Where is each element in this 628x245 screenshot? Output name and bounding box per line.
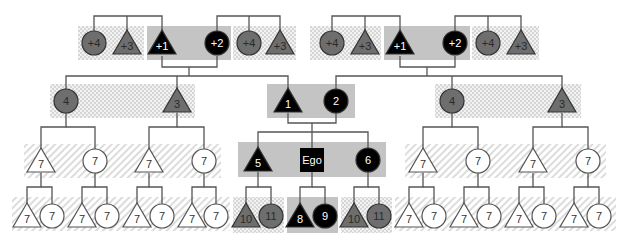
kin-node-label: +4	[326, 37, 339, 49]
kin-node-label: 7	[431, 210, 437, 222]
kin-node-label: 7	[596, 210, 602, 222]
kin-node-label: +4	[482, 37, 495, 49]
kin-node-label: +3	[515, 40, 528, 52]
kin-node-circle: 7	[40, 204, 64, 228]
kin-node-label: 7	[516, 213, 522, 225]
kin-node-circle: +2	[205, 31, 229, 55]
kin-node-label: 7	[541, 210, 547, 222]
kin-node-label: 7	[38, 158, 44, 170]
kin-node-label: 5	[255, 157, 261, 169]
kinship-connector-line	[149, 113, 177, 149]
kin-node-label: 7	[420, 158, 426, 170]
kin-node-circle: +4	[476, 31, 500, 55]
kin-node-circle: 7	[422, 204, 446, 228]
kin-node-label: 7	[530, 158, 536, 170]
kin-node-label: 7	[146, 158, 152, 170]
kin-node-label: 7	[486, 210, 492, 222]
kin-node-label: +2	[211, 37, 224, 49]
kin-node-label: 10	[348, 213, 360, 225]
kin-node-circle: 7	[192, 149, 216, 173]
kin-node-circle: 11	[259, 204, 283, 228]
kin-node-label: 7	[201, 155, 207, 167]
kin-node-circle: 9	[313, 204, 337, 228]
kin-node-circle: 7	[150, 204, 174, 228]
kin-node-label: 9	[322, 210, 328, 222]
kin-node-circle: 4	[54, 89, 78, 113]
kin-node-label: +4	[243, 37, 256, 49]
kin-node-label: 7	[79, 213, 85, 225]
kin-node-circle: 7	[466, 149, 490, 173]
kin-node-label: +3	[274, 40, 287, 52]
kin-node-square: Ego	[300, 148, 324, 172]
kin-node-label: 7	[104, 210, 110, 222]
kin-node-label: +3	[359, 40, 372, 52]
kin-node-circle: 7	[83, 149, 107, 173]
kin-node-label: 7	[159, 210, 165, 222]
kin-node-circle: 7	[532, 204, 556, 228]
kin-node-circle: +2	[443, 31, 467, 55]
kin-node-label: 10	[240, 213, 252, 225]
kin-node-label: +4	[88, 37, 101, 49]
kin-node-label: 7	[585, 155, 591, 167]
kin-node-circle: 7	[576, 149, 600, 173]
kin-node-label: 7	[24, 213, 30, 225]
kin-node-label: Ego	[302, 154, 322, 166]
kin-node-label: 7	[571, 213, 577, 225]
kin-node-label: 7	[475, 155, 481, 167]
kin-node-circle: 4	[440, 89, 464, 113]
kin-node-label: 7	[134, 213, 140, 225]
kin-node-label: 7	[461, 213, 467, 225]
kin-node-circle: 7	[587, 204, 611, 228]
kin-node-label: 7	[92, 155, 98, 167]
kin-node-label: 11	[373, 210, 384, 222]
kin-node-label: 7	[49, 210, 55, 222]
kin-node-label: +1	[394, 40, 407, 52]
kin-node-label: 8	[297, 213, 303, 225]
kin-node-label: 6	[365, 154, 371, 166]
kin-node-circle: +4	[320, 31, 344, 55]
kin-node-label: 7	[406, 213, 412, 225]
kinship-connector-line	[533, 113, 562, 149]
kin-node-label: 11	[265, 210, 276, 222]
kin-node-label: 4	[63, 95, 69, 107]
kin-node-label: 1	[285, 98, 291, 110]
kin-node-label: 7	[213, 210, 219, 222]
kinship-connector-line	[423, 113, 452, 149]
kinship-diagram: +4+3+1+2+4+3+4+3+1+2+4+343124377775Ego67…	[0, 0, 628, 245]
kinship-connector-line	[41, 113, 66, 149]
kin-node-label: 4	[449, 95, 455, 107]
kin-node-circle: 2	[324, 89, 348, 113]
kin-node-circle: 7	[95, 204, 119, 228]
kin-node-label: 3	[174, 98, 180, 110]
kin-node-label: 3	[559, 98, 565, 110]
kin-node-label: +3	[121, 40, 134, 52]
kin-node-circle: +4	[82, 31, 106, 55]
kin-node-circle: 11	[367, 204, 391, 228]
generation-bands	[12, 26, 616, 233]
kin-node-label: 2	[333, 95, 339, 107]
kin-node-label: +1	[156, 40, 169, 52]
kin-node-label: +2	[449, 37, 462, 49]
kin-node-label: 7	[189, 213, 195, 225]
kinship-diagram-canvas: +4+3+1+2+4+3+4+3+1+2+4+343124377775Ego67…	[0, 0, 628, 245]
kin-node-circle: 6	[356, 148, 380, 172]
kin-node-circle: 7	[204, 204, 228, 228]
kin-node-circle: 7	[477, 204, 501, 228]
kin-node-circle: +4	[237, 31, 261, 55]
